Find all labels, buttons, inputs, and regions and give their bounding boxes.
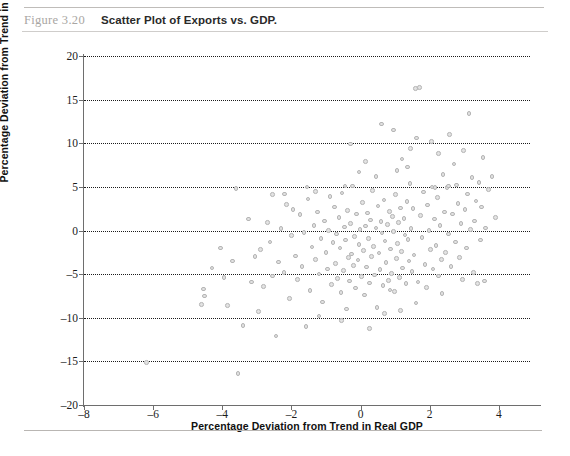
scatter-point: [395, 241, 400, 246]
scatter-point: [256, 309, 261, 314]
scatter-point: [306, 197, 311, 202]
scatter-point: [381, 283, 386, 288]
scatter-point: [391, 128, 396, 133]
y-axis-tick: [79, 56, 84, 57]
figure-caption: Figure 3.20 Scatter Plot of Exports vs. …: [24, 11, 277, 29]
scatter-point: [377, 251, 382, 256]
gridline-y: [84, 274, 530, 275]
scatter-point: [410, 269, 415, 274]
scatter-point: [365, 211, 370, 216]
y-axis-tick-label: –10: [61, 312, 78, 324]
y-axis-title: Percentage Deviation from Trend in Expor…: [0, 0, 10, 231]
scatter-point: [265, 220, 270, 225]
scatter-point: [268, 240, 273, 245]
scatter-point: [300, 264, 305, 269]
scatter-point: [380, 231, 385, 236]
scatter-point: [483, 226, 488, 231]
gridline-y: [84, 56, 530, 57]
scatter-point: [359, 274, 364, 279]
scatter-point: [357, 170, 362, 175]
scatter-point: [467, 111, 472, 116]
scatter-point: [329, 282, 334, 287]
footer-rule: [24, 430, 542, 431]
scatter-point: [348, 221, 353, 226]
scatter-plot-area: [84, 56, 530, 405]
gridline-y: [84, 143, 530, 144]
y-axis-tick-label: 15: [67, 94, 79, 106]
scatter-point: [493, 215, 498, 220]
y-axis-tick-label: 0: [72, 225, 78, 237]
scatter-point: [457, 255, 462, 260]
scatter-point: [370, 188, 375, 193]
figure-title: Scatter Plot of Exports vs. GDP.: [101, 14, 277, 26]
x-axis-tick-label: –6: [147, 408, 159, 420]
y-axis-tick: [79, 100, 84, 101]
scatter-point: [325, 267, 330, 272]
scatter-point: [258, 247, 263, 252]
scatter-point: [446, 232, 451, 237]
scatter-point: [468, 227, 473, 232]
y-axis-tick: [79, 143, 84, 144]
x-axis-tick-label: –2: [286, 408, 298, 420]
scatter-point: [433, 185, 438, 190]
scatter-point: [470, 175, 475, 180]
scatter-point: [367, 281, 372, 286]
scatter-point: [465, 192, 470, 197]
y-axis-tick: [79, 231, 84, 232]
scatter-point: [405, 199, 410, 204]
scatter-point: [201, 287, 206, 292]
scatter-point: [218, 246, 223, 251]
scatter-point: [225, 303, 230, 308]
scatter-point: [343, 238, 348, 243]
scatter-point: [270, 274, 275, 279]
y-axis-tick-label: 20: [67, 50, 79, 62]
scatter-point: [363, 224, 368, 229]
scatter-point: [304, 324, 309, 329]
scatter-point: [434, 243, 439, 248]
scatter-point: [199, 302, 204, 307]
scatter-point: [400, 266, 405, 271]
header-rule-bottom: [22, 31, 548, 32]
scatter-point: [276, 260, 281, 265]
scatter-point: [459, 221, 464, 226]
scatter-point: [420, 235, 425, 240]
scatter-point: [335, 276, 340, 281]
scatter-point: [452, 162, 457, 167]
scatter-point: [378, 267, 383, 272]
scatter-point: [320, 300, 325, 305]
scatter-point: [372, 273, 377, 278]
scatter-point: [202, 294, 207, 299]
scatter-point: [479, 205, 484, 210]
scatter-point: [408, 146, 413, 151]
scatter-point: [418, 213, 423, 218]
scatter-point: [472, 219, 477, 224]
scatter-point: [353, 286, 358, 291]
scatter-point: [298, 212, 303, 217]
scatter-point: [348, 142, 353, 147]
y-axis-tick: [79, 361, 84, 362]
figure-container: Figure 3.20 Scatter Plot of Exports vs. …: [0, 0, 570, 456]
scatter-point: [450, 212, 455, 217]
header-rule-top: [24, 7, 544, 8]
scatter-point: [461, 148, 466, 153]
scatter-point: [222, 275, 227, 280]
scatter-point: [368, 218, 373, 223]
scatter-point: [417, 85, 422, 90]
scatter-point: [284, 202, 289, 207]
scatter-point: [428, 247, 433, 252]
y-axis-tick-label: –5: [67, 268, 79, 280]
scatter-point: [395, 168, 400, 173]
scatter-point: [477, 180, 482, 185]
scatter-point: [441, 172, 446, 177]
scatter-point: [376, 204, 381, 209]
scatter-point: [357, 242, 362, 247]
scatter-point: [396, 220, 401, 225]
scatter-point: [374, 226, 379, 231]
scatter-point: [322, 219, 327, 224]
scatter-point: [312, 223, 317, 228]
scatter-point: [398, 206, 403, 211]
scatter-point: [144, 360, 149, 365]
scatter-point: [270, 192, 275, 197]
y-axis-tick-label: 5: [72, 181, 78, 193]
scatter-point: [287, 296, 292, 301]
